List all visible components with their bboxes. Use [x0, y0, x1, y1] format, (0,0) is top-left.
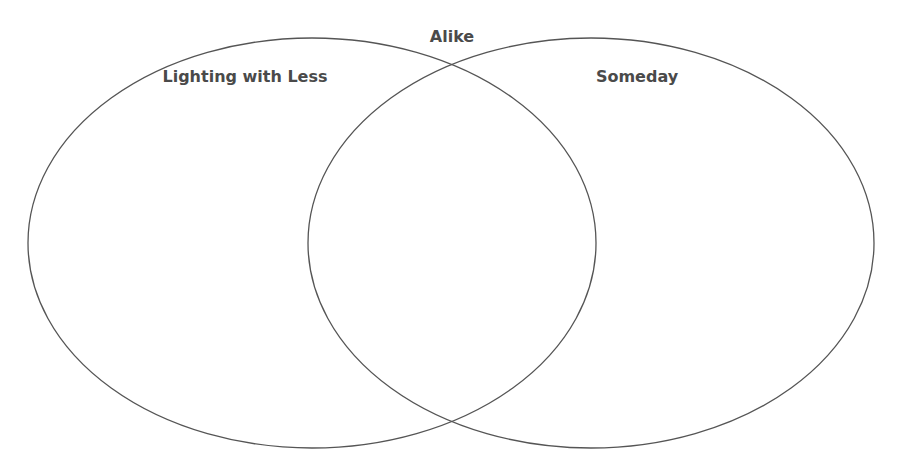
- left-set-label: Lighting with Less: [162, 67, 327, 86]
- venn-diagram: [0, 0, 903, 474]
- right-set-label: Someday: [596, 67, 678, 86]
- left-set-ellipse: [28, 38, 596, 448]
- right-set-ellipse: [308, 38, 874, 448]
- overlap-label: Alike: [430, 27, 474, 46]
